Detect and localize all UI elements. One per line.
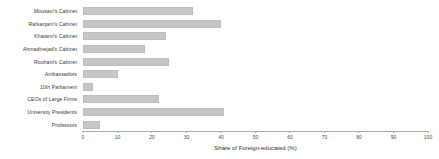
category-axis-labels: Mousavi's Cabinet Rafsanjani's Cabinet K…	[0, 5, 80, 131]
x-tick-label: 40	[218, 134, 224, 140]
bar	[83, 32, 166, 40]
category-label: 10th Parliament	[0, 81, 80, 94]
bar-row	[83, 55, 428, 68]
x-tick: 90	[391, 131, 397, 140]
x-tick-label: 80	[356, 134, 362, 140]
x-tick-mark	[152, 131, 153, 133]
x-tick: 50	[253, 131, 259, 140]
x-tick-label: 30	[184, 134, 190, 140]
horizontal-bar-chart: Mousavi's Cabinet Rafsanjani's Cabinet K…	[0, 0, 439, 159]
bar-series	[83, 5, 428, 131]
bar	[83, 83, 93, 91]
x-tick-label: 20	[149, 134, 155, 140]
category-label: Rouhani's Cabinet	[0, 55, 80, 68]
plot-area	[83, 5, 428, 131]
bar	[83, 121, 100, 129]
category-label: Rafsanjani's Cabinet	[0, 18, 80, 31]
bar	[83, 70, 118, 78]
category-label: Professors	[0, 118, 80, 131]
x-tick-mark	[393, 131, 394, 133]
bar-row	[83, 118, 428, 131]
x-tick: 30	[184, 131, 190, 140]
category-label: Ambassadors	[0, 68, 80, 81]
category-label: Mousavi's Cabinet	[0, 5, 80, 18]
bar-row	[83, 5, 428, 18]
bar-row	[83, 43, 428, 56]
x-tick-mark	[221, 131, 222, 133]
x-axis-ticks: 0102030405060708090100	[83, 131, 428, 143]
bar-row	[83, 93, 428, 106]
x-tick: 70	[322, 131, 328, 140]
x-tick-label: 0	[82, 134, 85, 140]
x-tick-label: 10	[115, 134, 121, 140]
x-tick: 0	[82, 131, 85, 140]
category-label: Khatami's Cabinet	[0, 30, 80, 43]
x-tick-mark	[255, 131, 256, 133]
bar-row	[83, 106, 428, 119]
category-label: University Presidents	[0, 106, 80, 119]
category-label: Ahmadinejad's Cabinet	[0, 43, 80, 56]
bar-row	[83, 68, 428, 81]
x-tick: 60	[287, 131, 293, 140]
x-tick-mark	[428, 131, 429, 133]
x-tick-label: 90	[391, 134, 397, 140]
x-tick-mark	[186, 131, 187, 133]
x-tick: 20	[149, 131, 155, 140]
bar	[83, 20, 221, 28]
bar	[83, 7, 193, 15]
x-tick-label: 100	[424, 134, 432, 140]
x-tick-label: 70	[322, 134, 328, 140]
x-tick-mark	[83, 131, 84, 133]
bar-row	[83, 30, 428, 43]
bar-row	[83, 18, 428, 31]
x-tick: 40	[218, 131, 224, 140]
x-tick-label: 50	[253, 134, 259, 140]
x-tick-label: 60	[287, 134, 293, 140]
x-tick-mark	[290, 131, 291, 133]
x-tick: 80	[356, 131, 362, 140]
category-label: CEOs of Large Firms	[0, 93, 80, 106]
bar	[83, 58, 169, 66]
bar	[83, 95, 159, 103]
x-tick: 10	[115, 131, 121, 140]
x-axis-title: Share of Foreign-educated (%)	[83, 145, 428, 151]
x-tick: 100	[424, 131, 432, 140]
bar	[83, 108, 224, 116]
x-tick-mark	[117, 131, 118, 133]
bar	[83, 45, 145, 53]
x-tick-mark	[324, 131, 325, 133]
x-tick-mark	[359, 131, 360, 133]
bar-row	[83, 81, 428, 94]
